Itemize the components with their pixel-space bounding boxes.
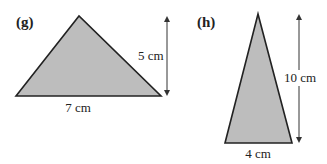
height-label-g: 5 cm [138, 48, 164, 63]
height-label-h: 10 cm [284, 70, 316, 85]
figure-g-label: (g) [16, 14, 34, 31]
figure-h: (h) 10 cm 4 cm [197, 14, 317, 161]
base-label-g: 7 cm [65, 100, 91, 115]
triangles-figure: (g) 5 cm 7 cm (h) 10 cm 4 cm [0, 0, 327, 164]
triangle-h [225, 14, 292, 143]
base-label-h: 4 cm [245, 146, 271, 161]
figure-h-label: (h) [197, 14, 215, 31]
figure-g: (g) 5 cm 7 cm [16, 14, 167, 115]
